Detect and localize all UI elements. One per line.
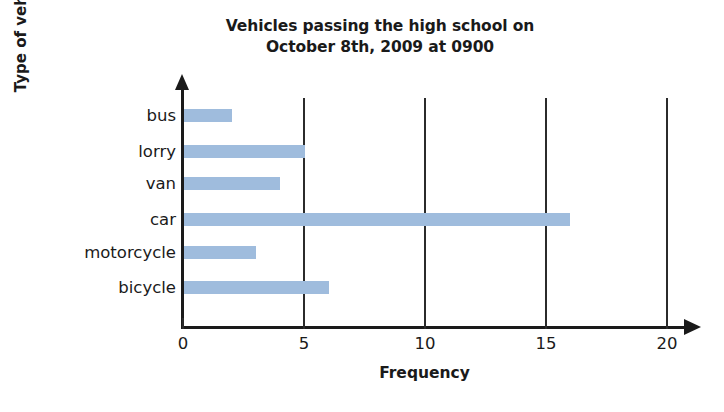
bar-motorcycle (184, 246, 256, 259)
category-label-lorry: lorry (0, 144, 176, 160)
bar-car (184, 213, 570, 226)
bar-lorry (184, 145, 305, 158)
category-label-van: van (0, 176, 176, 192)
x-tick-label-0: 0 (153, 334, 213, 353)
category-label-bicycle: bicycle (0, 280, 176, 296)
x-tick-20 (666, 318, 668, 329)
x-tick-10 (424, 318, 426, 329)
x-tick-5 (303, 318, 305, 329)
x-axis-arrow-icon (684, 319, 701, 335)
category-label-motorcycle: motorcycle (0, 245, 176, 261)
x-tick-0 (182, 318, 184, 329)
y-axis-line (181, 88, 184, 329)
bar-bicycle (184, 281, 329, 294)
y-axis-arrow-icon (175, 74, 189, 90)
x-tick-label-10: 10 (395, 334, 455, 353)
category-label-bus: bus (0, 108, 176, 124)
category-label-car: car (0, 212, 176, 228)
x-axis-line (181, 326, 686, 329)
bar-van (184, 177, 280, 190)
x-tick-15 (545, 318, 547, 329)
x-tick-label-20: 20 (637, 334, 697, 353)
x-tick-label-15: 15 (516, 334, 576, 353)
gridline-20 (666, 98, 668, 327)
plot-area: bus lorry van car motorcycle bicycle 0 5… (0, 0, 724, 412)
x-tick-label-5: 5 (274, 334, 334, 353)
x-axis-title: Frequency (183, 364, 666, 382)
bar-bus (184, 109, 232, 122)
